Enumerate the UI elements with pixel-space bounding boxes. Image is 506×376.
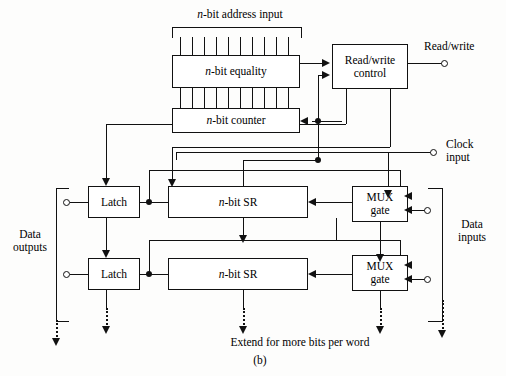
figure-canvas: n-bit address input n-bit equality n-bit…	[0, 0, 506, 376]
mux-row2-label-line1: MUX	[367, 260, 394, 273]
read-write-control-label-line1: Read/write	[345, 54, 395, 67]
block-n-bit-counter: n-bit counter	[172, 108, 300, 133]
arrow-data-inputs-extend	[438, 330, 446, 338]
junction-dot-latch2-out	[146, 271, 152, 277]
block-n-bit-sr-row1: n-bit SR	[168, 186, 308, 218]
dashed-data-inputs-extend	[442, 300, 444, 332]
block-latch-row2: Latch	[88, 258, 140, 290]
address-input-label: n-bit address input	[178, 8, 302, 21]
wire-latch1-branch-up	[149, 170, 150, 202]
data-outputs-bracket	[56, 188, 69, 322]
wire-rw-trunk-left-vert	[346, 89, 347, 124]
bus-tick	[276, 37, 277, 55]
bus-tick	[264, 37, 265, 55]
terminal-clock-input[interactable]	[430, 149, 437, 156]
dashed-data-outputs-extend	[56, 320, 58, 340]
mux-row2-label-line2: gate	[370, 273, 389, 286]
wire-sr1-right-down	[336, 218, 337, 240]
wire-clock-left-vert	[176, 152, 177, 160]
bus-tick	[204, 37, 205, 55]
bus-tick	[288, 37, 289, 55]
bus-tick	[240, 37, 241, 55]
wire-latch2-to-output	[70, 274, 88, 275]
wire-latch2-feedback-horiz	[149, 240, 400, 241]
wire-latch2-branch-up	[149, 240, 150, 274]
bus-tick	[192, 88, 193, 108]
n-bit-counter-label: n-bit counter	[206, 114, 265, 127]
read-write-port-label: Read/write	[424, 40, 502, 53]
read-write-control-label-line2: control	[354, 67, 387, 80]
terminal-data-input-row1[interactable]	[424, 207, 431, 214]
bus-tick	[264, 88, 265, 108]
bus-tick	[288, 88, 289, 108]
block-read-write-control: Read/write control	[332, 44, 408, 89]
clock-input-label: Clockinput	[446, 138, 502, 164]
arrow-into-rw-upper	[322, 59, 330, 67]
junction-dot-latch1-out	[146, 199, 152, 205]
arrow-feedback-into-mux2	[404, 261, 412, 269]
bus-tick	[276, 88, 277, 108]
wire-rw-trunk-right-horiz	[172, 147, 390, 148]
terminal-read-write[interactable]	[441, 60, 448, 67]
wire-counter-feedback-vert	[318, 75, 319, 121]
dashed-latch-column	[106, 308, 108, 328]
arrow-into-counter	[300, 117, 308, 125]
block-n-bit-sr-row2: n-bit SR	[168, 258, 308, 290]
arrow-feedback-into-mux1	[404, 192, 412, 200]
block-mux-gate-row1: MUX gate	[352, 186, 408, 222]
wire-rw-trunk-right-vert	[390, 89, 391, 147]
wire-latch-column-down	[106, 290, 107, 310]
mux-row1-label-line2: gate	[370, 204, 389, 217]
arrow-mux1-into-sr1	[308, 198, 316, 206]
wire-clock-horiz	[176, 152, 432, 153]
wire-latch1-to-output	[70, 202, 88, 203]
arrow-into-latch-bottom	[102, 250, 110, 258]
dashed-sr-column	[243, 308, 245, 328]
arrow-into-rw-lower	[322, 71, 330, 79]
arrow-clock-into-mux1	[384, 190, 392, 198]
wire-counter-trunk-horiz	[243, 160, 318, 161]
wire-latch-control-vert	[106, 124, 107, 180]
terminal-data-output-row2[interactable]	[63, 271, 70, 278]
wire-rw-output	[408, 63, 443, 64]
bus-tick	[240, 88, 241, 108]
terminal-data-output-row1[interactable]	[63, 199, 70, 206]
wire-mux1-to-sr1	[316, 202, 352, 203]
arrow-mux2-into-sr2	[308, 270, 316, 278]
bus-tick	[204, 88, 205, 108]
bus-tick	[180, 88, 181, 108]
arrow-data-input-into-mux2	[404, 275, 412, 283]
arrow-data-input-into-mux1	[404, 206, 412, 214]
n-bit-sr-row2-label: n-bit SR	[219, 268, 258, 281]
wire-latch1-feedback-horiz	[149, 170, 400, 171]
extend-note-label: Extend for more bits per word	[190, 336, 410, 349]
n-bit-equality-label: n-bit equality	[205, 65, 267, 78]
bus-tick	[192, 37, 193, 55]
wire-sr-control-vert	[172, 147, 173, 181]
latch-row2-label: Latch	[101, 268, 127, 281]
terminal-data-input-row2[interactable]	[424, 276, 431, 283]
arrow-into-latch-top	[102, 178, 110, 186]
bus-tick	[252, 37, 253, 55]
wire-latch1-to-sr1	[140, 202, 168, 203]
figure-caption: (b)	[240, 354, 280, 367]
arrow-into-mux2	[376, 254, 384, 262]
wire-latch1-to-latch2	[106, 218, 107, 252]
wire-mux1-to-mux2	[380, 222, 381, 256]
arrow-into-sr-top	[168, 179, 176, 187]
data-inputs-label: Datainputs	[446, 218, 498, 244]
block-n-bit-equality: n-bit equality	[172, 55, 300, 88]
wire-mux2-to-sr2	[316, 274, 352, 275]
arrow-into-sr-bottom	[239, 235, 247, 243]
arrow-data-outputs-extend	[52, 338, 60, 346]
wire-counter-trunk-down	[318, 121, 319, 160]
bus-tick	[180, 37, 181, 55]
wire-equality-to-rw	[300, 63, 324, 64]
arrow-latch-column-extend	[102, 326, 110, 334]
bus-tick	[228, 88, 229, 108]
arrow-sr-column-extend	[239, 326, 247, 334]
bus-tick	[216, 37, 217, 55]
bus-tick	[228, 37, 229, 55]
bus-tick	[216, 88, 217, 108]
wire-latch2-to-sr2	[140, 274, 168, 275]
